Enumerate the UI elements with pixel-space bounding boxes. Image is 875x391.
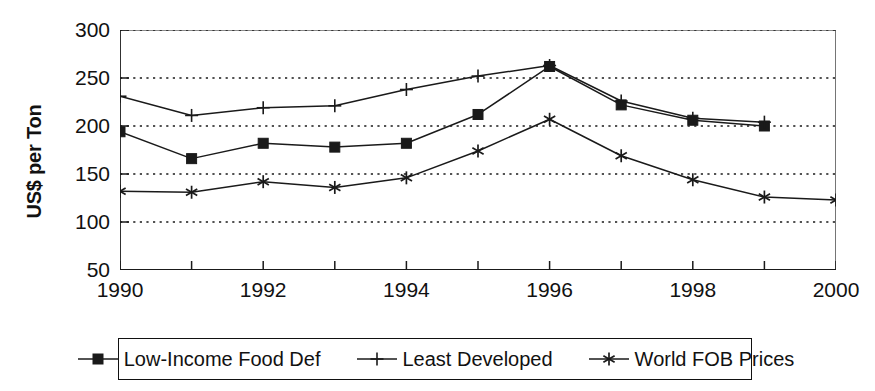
x-tick-label: 1994 (371, 279, 441, 300)
y-tick-label: 200 (48, 115, 110, 136)
marker-square (258, 138, 268, 148)
y-tick-label: 250 (48, 67, 110, 88)
marker-square (93, 354, 103, 364)
x-tick-label: 1992 (228, 279, 298, 300)
line-chart-figure: US$ per Ton 50100150200250300 1990199219… (0, 0, 875, 391)
series-line (120, 66, 764, 123)
x-tick-label: 1998 (658, 279, 728, 300)
legend-label: World FOB Prices (635, 348, 795, 371)
chart-canvas (120, 30, 836, 270)
y-tick-label: 300 (48, 19, 110, 40)
y-axis-title: US$ per Ton (23, 82, 46, 242)
y-tick-label: 150 (48, 163, 110, 184)
marker-square (401, 138, 411, 148)
marker-square (187, 154, 197, 164)
marker-square (120, 127, 125, 137)
series-1 (120, 59, 771, 129)
chart-legend: Low-Income Food DefLeast DevelopedWorld … (118, 338, 752, 380)
legend-item-0: Low-Income Food Def (76, 348, 321, 371)
y-axis-ticks (120, 30, 129, 270)
x-tick-label: 1996 (515, 279, 585, 300)
legend-item-2: World FOB Prices (587, 348, 795, 371)
legend-label: Least Developed (403, 348, 553, 371)
legend-marker-asterisk (587, 350, 631, 368)
gridlines (120, 30, 836, 222)
legend-item-1: Least Developed (355, 348, 553, 371)
legend-marker-plus (355, 350, 399, 368)
series-line (120, 119, 836, 200)
series-2 (120, 113, 836, 207)
marker-square (473, 109, 483, 119)
legend-marker-square (76, 350, 120, 368)
y-tick-label: 100 (48, 211, 110, 232)
x-tick-label: 2000 (801, 279, 871, 300)
y-tick-label: 50 (48, 259, 110, 280)
x-axis-ticks (120, 261, 836, 270)
marker-square (330, 142, 340, 152)
x-tick-label: 1990 (85, 279, 155, 300)
data-series-group (120, 59, 836, 206)
plot-area (120, 30, 836, 270)
legend-label: Low-Income Food Def (124, 348, 321, 371)
